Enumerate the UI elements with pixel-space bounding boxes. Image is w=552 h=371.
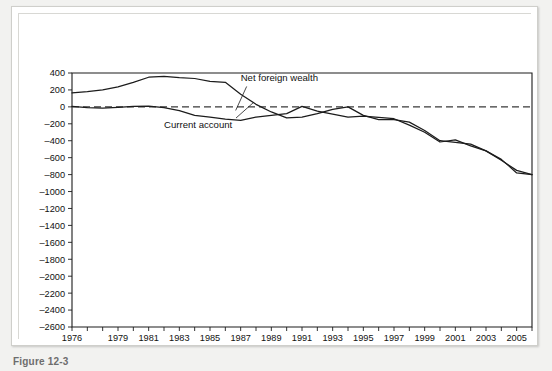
x-tick-label: 1985: [200, 333, 220, 342]
y-tick-label: –1000: [39, 187, 65, 197]
x-tick-label: 1976: [62, 333, 82, 342]
x-tick-label: 1999: [414, 333, 434, 342]
y-tick-label: –2000: [39, 272, 65, 282]
y-tick-label: –2600: [39, 322, 65, 332]
y-tick-label: 0: [60, 102, 65, 112]
plot-background: [19, 14, 534, 342]
line-chart: 4002000–200–400–600–800–1000–1200–1400–1…: [19, 14, 534, 342]
y-tick-label: –200: [45, 119, 65, 129]
y-tick-label: –2400: [39, 305, 65, 315]
x-tick-label: 1989: [261, 333, 281, 342]
x-tick-label: 1987: [230, 333, 250, 342]
figure-frame: Current account, net foreign wealth (bil…: [11, 6, 538, 346]
x-tick-label: 1979: [108, 333, 128, 342]
y-tick-label: –600: [45, 153, 65, 163]
plot-wrapper: 4002000–200–400–600–800–1000–1200–1400–1…: [19, 14, 546, 354]
annotation-current-account: Current account: [164, 119, 233, 130]
x-tick-label: 1997: [384, 333, 404, 342]
figure-page: Current account, net foreign wealth (bil…: [0, 0, 552, 371]
y-tick-label: –1200: [39, 204, 65, 214]
y-tick-label: –1400: [39, 221, 65, 231]
x-tick-label: 1981: [138, 333, 158, 342]
x-tick-label: 1995: [353, 333, 373, 342]
figure-inner-border: Current account, net foreign wealth (bil…: [18, 13, 531, 339]
y-tick-label: 400: [50, 68, 65, 78]
y-tick-label: –400: [45, 136, 65, 146]
y-tick-label: –800: [45, 170, 65, 180]
y-tick-label: –1600: [39, 238, 65, 248]
x-tick-label: 2003: [476, 333, 496, 342]
y-tick-label: 200: [50, 85, 65, 95]
annotation-net-foreign-wealth: Net foreign wealth: [241, 72, 318, 83]
x-tick-label: 2001: [445, 333, 465, 342]
figure-caption: Figure 12-3: [13, 356, 69, 371]
x-tick-label: 1991: [292, 333, 312, 342]
x-tick-label: 1993: [322, 333, 342, 342]
y-tick-label: –1800: [39, 255, 65, 265]
x-tick-label: 1983: [169, 333, 189, 342]
x-tick-label: 2005: [506, 333, 526, 342]
y-tick-label: –2200: [39, 289, 65, 299]
